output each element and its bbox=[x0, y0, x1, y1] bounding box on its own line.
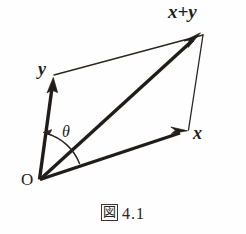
figure-caption: 図4.1 bbox=[0, 204, 246, 223]
label-vector-x: x bbox=[193, 124, 202, 142]
vector-x-arrowhead bbox=[171, 127, 188, 134]
thin-side-top bbox=[54, 35, 203, 75]
vector-sum-xy bbox=[40, 33, 201, 180]
thin-side-right bbox=[189, 35, 204, 130]
label-angle-theta: θ bbox=[62, 124, 70, 140]
label-sum-vector: x+y bbox=[168, 2, 197, 21]
vector-y-arrowhead bbox=[47, 78, 58, 94]
label-vector-y: y bbox=[38, 60, 46, 78]
caption-number: 4.1 bbox=[122, 205, 145, 222]
vector-sum-shaft bbox=[40, 40, 193, 180]
vector-y-shaft bbox=[40, 88, 53, 180]
figure-container: x+y y x θ O 図4.1 bbox=[0, 0, 246, 234]
caption-kanji-zu: 図 bbox=[101, 204, 118, 221]
label-origin-o: O bbox=[21, 171, 33, 188]
vector-diagram bbox=[0, 0, 246, 234]
